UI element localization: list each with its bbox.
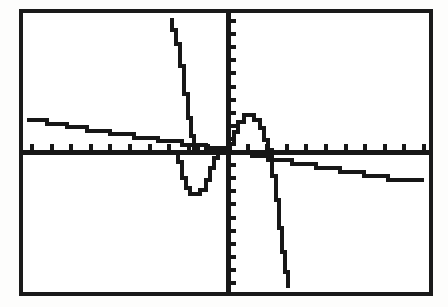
screenshot-root: Graphing calculator LCD display showing …	[0, 0, 448, 307]
lcd-viewport[interactable]	[23, 13, 429, 292]
calculator-screen-bezel	[19, 9, 433, 296]
series-valley	[178, 152, 218, 194]
graph-plot[interactable]	[23, 13, 429, 292]
series-right-asymptote-branch	[272, 156, 288, 288]
series-left-asymptote-branch	[172, 18, 198, 152]
